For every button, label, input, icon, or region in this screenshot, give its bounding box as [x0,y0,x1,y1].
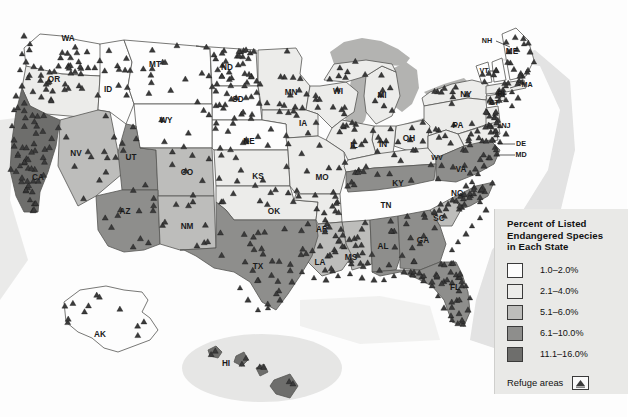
legend-swatch-5 [507,347,523,362]
state-label-tx: TX [253,262,264,271]
refuge-marker [21,33,27,38]
refuge-marker [509,103,514,108]
state-label-ks: KS [252,172,264,181]
state-label-il: IL [350,141,357,150]
state-label-ma: MA [521,80,532,89]
state-label-ct: CT [489,98,499,107]
legend-label-1: 1.0–2.0% [540,265,578,275]
legend-label-2: 2.1–4.0% [540,286,578,296]
refuge-marker [503,131,509,136]
refuge-marker [455,239,460,244]
legend-swatch-3 [507,305,523,320]
refuge-marker [477,215,482,220]
state-mt [124,40,212,104]
state-wy [134,104,212,148]
state-label-va: VA [456,165,467,174]
state-label-de: DE [516,139,526,148]
legend-entries: 1.0–2.0%2.1–4.0%5.1–6.0%6.1–10.0%11.1–16… [507,260,628,365]
legend-entry-3: 5.1–6.0% [507,302,628,323]
state-label-nm: NM [181,222,194,231]
state-label-al: AL [378,242,389,251]
state-label-sd: SD [232,95,243,104]
state-label-wv: WV [431,153,443,162]
legend-title-line-2: Endangered Species [507,230,628,242]
state-label-ok: OK [268,207,280,216]
state-label-mo: MO [315,173,329,182]
state-label-ky: KY [392,179,404,188]
refuge-marker [515,95,521,100]
state-label-or: OR [48,75,60,84]
legend-title-line-3: in Each State [507,241,628,253]
state-label-wa: WA [61,34,74,43]
state-label-vt: VT [479,66,489,75]
refuge-marker [449,247,454,252]
refuge-marker [255,307,260,312]
state-label-co: CO [181,168,194,177]
state-label-az: AZ [120,207,131,216]
refuge-marker [463,183,469,188]
state-label-id: ID [104,85,112,94]
state-label-nj: NJ [501,121,510,130]
state-label-ny: NY [460,90,472,99]
refuge-marker [13,93,19,98]
state-az [96,190,160,252]
state-label-ca: CA [32,173,44,182]
state-label-mn: MN [285,88,298,97]
legend-label-4: 6.1–10.0% [540,328,583,338]
state-label-hi: HI [222,359,230,368]
legend-title-line-1: Percent of Listed [507,218,628,230]
state-label-nd: ND [221,63,233,72]
refuge-marker [371,277,377,282]
legend-title: Percent of Listed Endangered Species in … [507,218,628,253]
legend-refuge-label: Refuge areas [507,377,563,388]
state-label-nv: NV [70,149,82,158]
legend-label-3: 5.1–6.0% [540,307,578,317]
state-label-nc: NC [451,189,463,198]
state-label-ia: IA [299,119,307,128]
refuge-marker [17,67,22,72]
refuge-marker [311,275,316,280]
state-label-sc: SC [433,214,444,223]
state-label-ar: AR [316,225,328,234]
state-label-fl: FL [450,283,460,292]
state-label-me: ME [506,47,519,56]
state-nh [492,58,506,82]
refuge-triangle-icon [572,376,589,390]
state-label-md: MD [515,150,526,159]
legend-entry-4: 6.1–10.0% [507,323,628,344]
refuge-marker [381,277,386,282]
state-label-pa: PA [453,121,464,130]
state-label-wy: WY [159,116,173,125]
state-label-mi: MI [377,91,386,100]
refuge-marker [245,297,251,302]
legend-entry-2: 2.1–4.0% [507,281,628,302]
refuge-marker [335,273,340,278]
legend-entry-5: 11.1–16.0% [507,344,628,365]
state-label-wi: WI [333,87,343,96]
legend-swatch-1 [507,263,523,278]
legend-entry-1: 1.0–2.0% [507,260,628,281]
state-label-in: IN [379,140,387,149]
refuge-marker [19,51,24,56]
refuge-marker [359,275,365,280]
state-label-tn: TN [381,201,392,210]
map-legend: Percent of Listed Endangered Species in … [494,209,628,394]
state-label-la: LA [315,258,326,267]
refuge-marker [323,277,329,282]
refuge-marker [237,285,242,290]
state-label-ga: GA [417,236,429,245]
legend-swatch-4 [507,326,523,341]
state-label-ut: UT [126,153,137,162]
refuge-marker [469,179,474,184]
state-label-ms: MS [345,253,358,262]
refuge-marker [483,207,489,212]
state-label-ne: NE [243,137,255,146]
state-label-ak: AK [94,330,106,339]
refuge-marker [463,231,469,236]
legend-swatch-2 [507,284,523,299]
state-label-ri: RI [497,89,504,98]
legend-refuge-row: Refuge areas [507,376,628,390]
state-label-mt: MT [149,60,161,69]
legend-label-5: 11.1–16.0% [540,349,588,359]
